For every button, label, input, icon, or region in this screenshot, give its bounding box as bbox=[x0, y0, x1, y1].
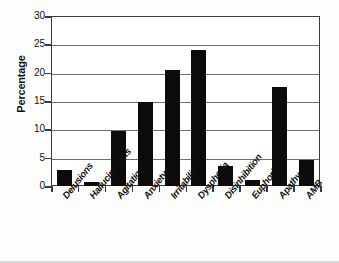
y-tick-label-15: 15 bbox=[19, 95, 45, 106]
y-tick-label-20: 20 bbox=[19, 67, 45, 78]
y-tick-label-25: 25 bbox=[19, 38, 45, 49]
chart-page: Percentage 30 25 20 15 10 5 0 DelusionsH… bbox=[0, 0, 339, 263]
y-tick-label-5: 5 bbox=[19, 152, 45, 163]
y-tick-label-10: 10 bbox=[19, 123, 45, 134]
x-tick-mark-0 bbox=[51, 186, 53, 192]
bar-irritability bbox=[165, 70, 180, 186]
y-tick-label-0: 0 bbox=[19, 180, 45, 191]
scan-edge-top bbox=[0, 0, 339, 2]
y-axis-title: Percentage bbox=[15, 39, 27, 129]
bars-layer bbox=[51, 16, 320, 186]
y-tick-label-30: 30 bbox=[19, 10, 45, 21]
